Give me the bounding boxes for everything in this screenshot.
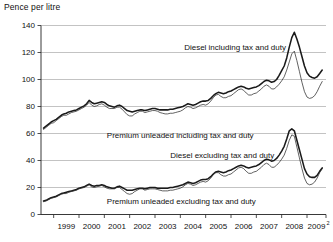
x-tick-label: 2007	[260, 222, 278, 231]
plot-svg: 020406080100120140 199920002001200220032…	[0, 0, 333, 242]
x-tick-label: 2002	[133, 222, 151, 231]
series-line	[44, 51, 323, 129]
x-tick-label: 2006	[235, 222, 253, 231]
y-tick-label: 120	[22, 48, 36, 57]
x-axis-ticks: 1999200020012002200320042005200620072008…	[54, 215, 330, 231]
y-tick-label: 100	[22, 75, 36, 84]
x-tick-label: 2004	[184, 222, 202, 231]
x-tick-footnote-marker: 2	[327, 220, 330, 226]
x-tick-label: 2009	[308, 222, 326, 231]
x-tick-label: 2008	[285, 222, 303, 231]
x-tick-label: 2001	[108, 222, 126, 231]
y-tick-label: 60	[26, 129, 35, 138]
series-annotation-label: Premium unleaded including tax and duty	[107, 131, 254, 140]
y-tick-label: 40	[26, 156, 35, 165]
series-annotation-label: Diesel including tax and duty	[184, 43, 286, 52]
x-tick-label: 1999	[57, 222, 75, 231]
data-series	[44, 32, 323, 201]
series-line	[44, 129, 323, 201]
x-tick-label: 2000	[83, 222, 101, 231]
series-line	[44, 135, 323, 202]
y-tick-label: 80	[26, 102, 35, 111]
fuel-price-chart: Pence per litre 020406080100120140 19992…	[0, 0, 333, 242]
plot-area: 020406080100120140 199920002001200220032…	[0, 0, 333, 242]
x-tick-label: 2005	[209, 222, 227, 231]
x-tick-label: 2003	[159, 222, 177, 231]
y-axis-ticks: 020406080100120140	[22, 21, 41, 219]
series-annotation-label: Diesel excluding tax and duty	[170, 151, 274, 160]
series-annotation-label: Premium unleaded excluding tax and duty	[107, 197, 256, 206]
y-tick-label: 0	[31, 210, 36, 219]
y-tick-label: 140	[22, 21, 36, 30]
series-annotations: Diesel including tax and dutyPremium unl…	[107, 43, 286, 206]
y-tick-label: 20	[26, 183, 35, 192]
